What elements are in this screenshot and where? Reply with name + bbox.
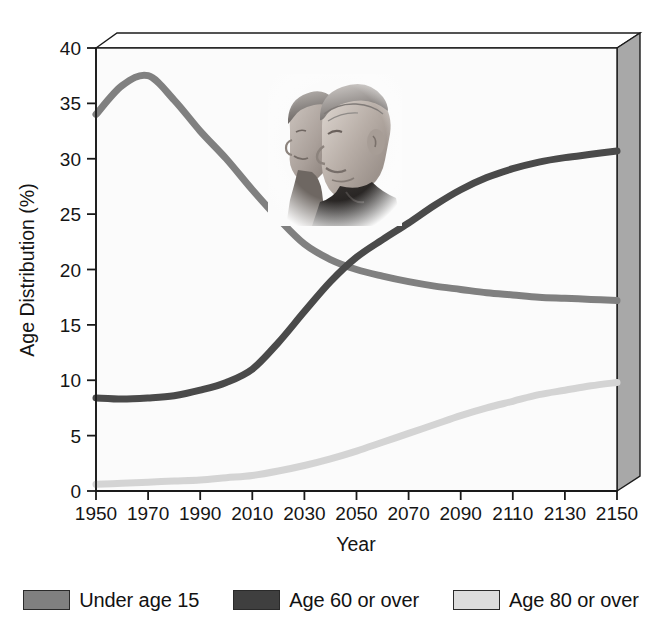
x-tick-label: 2030: [283, 503, 325, 524]
x-tick-label: 2050: [335, 503, 377, 524]
y-tick-label: 10: [60, 370, 81, 391]
plot-stage: 0510152025303540 19501970199020102030205…: [0, 0, 662, 560]
x-tick-label: 2110: [492, 503, 533, 524]
x-tick-label: 2010: [231, 503, 273, 524]
x-tick-label: 2130: [544, 503, 586, 524]
legend-label-under-age-15: Under age 15: [79, 589, 199, 612]
y-tick-label: 5: [70, 426, 81, 447]
y-tick-label: 15: [60, 315, 81, 336]
y-tick-label: 25: [60, 204, 81, 225]
y-tick-label: 0: [70, 481, 81, 502]
legend-item-under-age-15[interactable]: Under age 15: [23, 589, 199, 612]
x-tick-label: 2150: [596, 503, 638, 524]
plot-box-right-face: [617, 33, 640, 491]
x-tick-label: 2070: [387, 503, 429, 524]
x-tick-label: 1970: [127, 503, 169, 524]
x-tick-label: 1950: [75, 503, 117, 524]
figure-root: 0510152025303540 19501970199020102030205…: [0, 0, 662, 640]
legend-label-age-60-or-over: Age 60 or over: [289, 589, 419, 612]
chart-legend: Under age 15 Age 60 or over Age 80 or ov…: [0, 578, 662, 622]
y-tick-label: 20: [60, 260, 81, 281]
y-axis-title: Age Distribution (%): [16, 183, 38, 356]
legend-item-age-80-or-over[interactable]: Age 80 or over: [453, 589, 639, 612]
y-tick-label: 30: [60, 149, 81, 170]
x-tick-label: 1990: [179, 503, 221, 524]
y-tick-label: 40: [60, 38, 81, 59]
y-axis-ticks: 0510152025303540: [60, 38, 96, 502]
legend-label-age-80-or-over: Age 80 or over: [509, 589, 639, 612]
x-axis-title: Year: [336, 533, 376, 555]
x-tick-label: 2090: [440, 503, 482, 524]
plot-box-top-face: [96, 33, 640, 48]
legend-swatch-under-age-15: [23, 590, 70, 610]
legend-item-age-60-or-over[interactable]: Age 60 or over: [233, 589, 419, 612]
chart-svg: 0510152025303540 19501970199020102030205…: [0, 0, 662, 560]
x-axis-ticks: 1950197019902010203020502070209021102130…: [75, 491, 638, 524]
legend-swatch-age-80-or-over: [453, 590, 500, 610]
legend-swatch-age-60-or-over: [233, 590, 280, 610]
y-tick-label: 35: [60, 93, 81, 114]
